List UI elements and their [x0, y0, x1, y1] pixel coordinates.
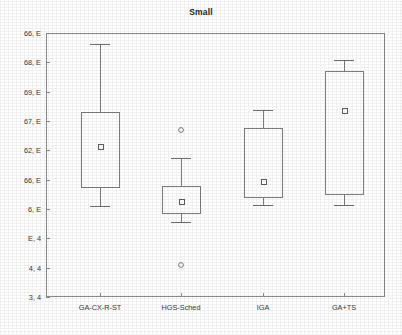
y-tick-label: 3, 4	[29, 293, 41, 302]
y-tick-label: 67, E	[24, 117, 41, 126]
y-tick-label: 66, E	[24, 176, 41, 185]
box-rect	[245, 129, 283, 198]
box-plot-item	[326, 60, 364, 206]
mean-marker	[343, 109, 348, 114]
x-tick-label: IGA	[257, 303, 270, 312]
box-plot-figure: Small 66, E68, E69, E67, E62, E66, E6, E…	[0, 0, 402, 335]
y-tick-label: 66, E	[24, 29, 41, 38]
y-tick-label: 69, E	[24, 88, 41, 97]
y-tick-label: 6, E	[28, 205, 41, 214]
outlier-marker	[179, 263, 184, 268]
mean-marker	[99, 145, 104, 150]
x-axis: GA-CX-R-STHGS-SchedIGAGA+TS	[79, 293, 356, 312]
plot-canvas: 66, E68, E69, E67, E62, E66, E6, EE, 44,…	[0, 0, 402, 335]
box-series	[82, 44, 364, 267]
x-tick-label: GA+TS	[332, 303, 356, 312]
y-tick-label: E, 4	[28, 234, 41, 243]
outlier-marker	[179, 128, 184, 133]
box-plot-item	[82, 44, 120, 207]
y-tick-label: 4, 4	[29, 264, 41, 273]
y-tick-label: 68, E	[24, 58, 41, 67]
mean-marker	[180, 200, 185, 205]
box-plot-item	[163, 128, 201, 268]
box-plot-item	[245, 110, 283, 206]
plot-frame	[47, 34, 385, 297]
x-tick-label: HGS-Sched	[162, 303, 201, 312]
y-tick-label: 62, E	[24, 146, 41, 155]
box-rect	[326, 72, 364, 195]
x-tick-label: GA-CX-R-ST	[79, 303, 122, 312]
mean-marker	[262, 180, 267, 185]
